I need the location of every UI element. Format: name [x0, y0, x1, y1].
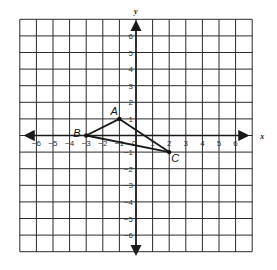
x-tick-label: 3: [184, 139, 189, 148]
y-tick-label: −4: [124, 198, 134, 207]
y-tick-label: −1: [124, 148, 134, 157]
y-tick-label: 1: [129, 115, 134, 124]
y-tick-label: 4: [129, 65, 134, 74]
x-tick-label: −5: [48, 139, 58, 148]
y-tick-label: 6: [129, 32, 134, 41]
y-tick-label: −5: [124, 215, 134, 224]
point-label-b: B: [73, 127, 80, 139]
point-label-a: A: [109, 105, 117, 117]
y-axis-label: y: [133, 7, 138, 16]
point-label-c: C: [171, 152, 179, 164]
coordinate-plane: −6−5−4−3−2−10123456654321−1−2−3−4−5−6 AB…: [0, 0, 277, 270]
point-a: [117, 117, 121, 121]
x-tick-label: 5: [217, 139, 222, 148]
y-tick-label: 2: [129, 98, 134, 107]
y-tick-label: −6: [124, 231, 134, 240]
x-tick-label: 6: [233, 139, 238, 148]
y-tick-label: −2: [124, 165, 134, 174]
y-tick-label: −3: [124, 181, 134, 190]
y-tick-label: 3: [129, 82, 134, 91]
y-tick-label: 5: [129, 49, 134, 58]
point-b: [84, 133, 88, 137]
x-tick-label: −6: [32, 139, 42, 148]
x-tick-label: −4: [65, 139, 75, 148]
x-tick-label: −3: [82, 139, 92, 148]
x-tick-label: 4: [200, 139, 205, 148]
x-axis-label: x: [259, 132, 264, 141]
x-tick-label: 2: [167, 139, 172, 148]
